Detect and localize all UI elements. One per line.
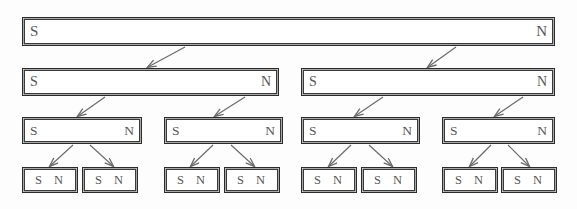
north-pole-label: N [54,174,69,187]
magnet-l4-4: SN [226,169,278,191]
arrow-l2-to-l3-2 [215,97,245,116]
magnet-l4-6: SN [363,169,415,191]
arrow-l2-to-l3-4 [495,97,523,116]
magnet-l1-1: SN [24,19,553,44]
magnet-l4-8: SN [503,169,555,191]
south-pole-label: S [173,174,184,187]
arrow-l2-to-l3-1 [78,97,105,116]
north-pole-label: N [536,24,552,39]
arrow-l3-to-l4-4 [231,145,254,166]
south-pole-label: S [25,75,38,89]
magnet-l4-1: SN [24,169,76,191]
north-pole-label: N [333,174,348,187]
north-pole-label: N [402,124,417,138]
magnet-l2-1: SN [24,70,277,94]
magnet-l4-7: SN [444,169,496,191]
magnet-l4-3: SN [166,169,218,191]
magnet-l3-1: SN [24,119,140,142]
arrow-l3-to-l4-1 [50,145,73,166]
arrow-l3-to-l4-6 [369,145,392,166]
arrows-group [50,47,529,166]
south-pole-label: S [31,174,42,187]
south-pole-label: S [25,24,38,39]
arrow-l2-to-l3-3 [355,97,383,116]
north-pole-label: N [474,174,489,187]
north-pole-label: N [256,174,271,187]
north-pole-label: N [114,174,129,187]
south-pole-label: S [91,174,102,187]
arrow-l1-to-l2-1 [148,47,185,67]
south-pole-label: S [304,124,317,138]
south-pole-label: S [510,174,521,187]
arrow-l1-to-l2-2 [428,47,456,67]
south-pole-label: S [370,174,381,187]
magnet-l3-3: SN [303,119,418,142]
north-pole-label: N [261,75,276,89]
north-pole-label: N [124,124,139,138]
arrow-l3-to-l4-2 [90,145,113,166]
south-pole-label: S [451,174,462,187]
arrow-l3-to-l4-5 [329,145,351,166]
north-pole-label: N [537,124,552,138]
north-pole-label: N [196,174,211,187]
arrow-l3-to-l4-8 [508,145,529,166]
arrow-l3-to-l4-3 [191,145,213,166]
magnet-l4-5: SN [303,169,355,191]
north-pole-label: N [265,124,280,138]
south-pole-label: S [310,174,321,187]
south-pole-label: S [233,174,244,187]
south-pole-label: S [25,124,38,138]
south-pole-label: S [304,75,317,89]
north-pole-label: N [533,174,548,187]
north-pole-label: N [393,174,408,187]
south-pole-label: S [167,124,180,138]
north-pole-label: N [537,75,552,89]
arrow-l3-to-l4-7 [470,145,491,166]
magnet-l2-2: SN [303,70,553,94]
magnet-l4-2: SN [84,169,136,191]
magnet-subdivision-diagram: SNSNSNSNSNSNSNSNSNSNSNSNSNSNSN [0,0,577,209]
magnet-l3-2: SN [166,119,281,142]
south-pole-label: S [445,124,458,138]
magnet-l3-4: SN [444,119,553,142]
